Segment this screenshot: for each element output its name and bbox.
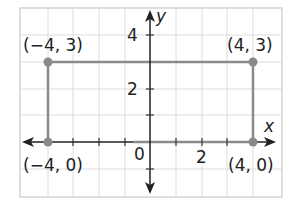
coordinate-plane: y x 4 2 0 2 (−4, 3) (4, 3) (−4, 0) (4, 0… — [0, 0, 295, 205]
point-label-neg4-3: (−4, 3) — [23, 35, 83, 55]
point-4-0 — [249, 138, 258, 147]
point-neg4-0 — [44, 138, 53, 147]
origin-label: 0 — [134, 144, 145, 164]
point-neg4-3 — [44, 58, 53, 67]
point-label-4-0: (4, 0) — [228, 155, 274, 175]
y-tick-2: 2 — [127, 79, 138, 99]
y-tick-4: 4 — [127, 25, 138, 45]
point-label-4-3: (4, 3) — [227, 35, 273, 55]
x-tick-2: 2 — [196, 147, 207, 167]
point-4-3 — [249, 58, 258, 67]
x-axis-label: x — [263, 116, 275, 136]
point-label-neg4-0: (−4, 0) — [23, 155, 83, 175]
y-axis-label: y — [155, 6, 167, 26]
